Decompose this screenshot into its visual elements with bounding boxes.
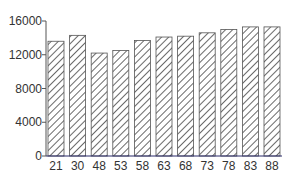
x-axis: 2130485358636873788388 <box>46 156 282 173</box>
y-tick-label: 4000 <box>15 115 42 129</box>
x-tick-label: 30 <box>71 159 85 173</box>
x-tick-label: 48 <box>93 159 107 173</box>
bar-21 <box>48 41 64 156</box>
bar-83 <box>242 27 258 156</box>
x-tick-label: 58 <box>136 159 150 173</box>
x-tick-label: 53 <box>114 159 128 173</box>
bar-63 <box>156 37 172 156</box>
bar-73 <box>199 33 215 156</box>
x-tick-label: 68 <box>179 159 193 173</box>
y-axis: 0400080001200016000 <box>9 14 46 163</box>
y-tick-label: 0 <box>35 149 42 163</box>
x-tick-label: 83 <box>244 159 258 173</box>
bar-58 <box>134 40 150 156</box>
bars <box>48 27 280 156</box>
y-tick-label: 12000 <box>9 48 43 62</box>
x-tick-label: 78 <box>222 159 236 173</box>
bar-53 <box>113 51 129 156</box>
y-tick-label: 8000 <box>15 82 42 96</box>
bar-88 <box>264 27 280 156</box>
bar-78 <box>221 29 237 156</box>
bar-30 <box>70 35 86 156</box>
x-tick-label: 88 <box>265 159 279 173</box>
bar-68 <box>178 36 194 156</box>
x-tick-label: 21 <box>49 159 63 173</box>
bar-chart: 0400080001200016000 21304853586368737883… <box>0 0 290 179</box>
x-tick-label: 63 <box>157 159 171 173</box>
bar-48 <box>91 53 107 156</box>
x-tick-label: 73 <box>201 159 215 173</box>
y-tick-label: 16000 <box>9 14 43 28</box>
